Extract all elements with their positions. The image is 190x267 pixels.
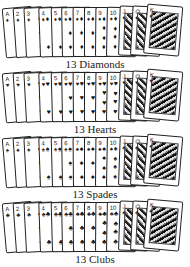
spades-pip-icon: ♠	[80, 160, 84, 167]
diamonds-pip-icon: ♦	[47, 44, 51, 51]
face-card-art	[149, 141, 179, 180]
clubs-pip-icon: ♣	[46, 211, 51, 218]
card-fan: A♣♣2♣♣♣3♣♣♣♣4♣♣♣♣♣5♣♣♣♣♣♣6♣♣♣♣♣♣♣7♣♣♣♣♣♣…	[0, 198, 190, 254]
card-index: 7♦	[76, 10, 79, 22]
card-index: 2♦	[16, 11, 20, 23]
hearts-pip-icon: ♥	[46, 81, 50, 88]
card-index: A♦	[5, 11, 10, 23]
card-index: 5♠	[54, 140, 58, 152]
spades-icon: ♠	[64, 146, 67, 152]
diamonds-pip-icon: ♦	[80, 16, 84, 23]
diamonds-pip-icon: ♦	[46, 16, 50, 23]
diamonds-pip-icon: ♦	[102, 35, 106, 42]
card-index: 3♥	[27, 76, 31, 88]
diamonds-pip-icon: ♦	[113, 44, 117, 51]
face-card-art	[149, 11, 179, 50]
diamonds-pip-icon: ♦	[102, 16, 106, 23]
spades-icon: ♠	[98, 146, 101, 152]
face-card-art	[149, 206, 179, 245]
suit-caption: 13 Clubs	[0, 253, 190, 265]
card-index: 5♦	[54, 10, 58, 22]
spades-icon: ♠	[76, 146, 79, 152]
spades-icon: ♠	[54, 146, 57, 152]
spades-pip-icon: ♠	[113, 164, 117, 171]
diamonds-pip-icon: ♦	[69, 30, 73, 37]
spades-pip-icon: ♠	[102, 155, 106, 162]
diamonds-pip-icon: ♦	[91, 30, 95, 37]
face-card-art	[149, 76, 179, 115]
diamonds-icon: ♦	[76, 16, 79, 22]
clubs-pip-icon: ♣	[114, 211, 119, 218]
hearts-icon: ♥	[27, 81, 31, 87]
card-k-of-clubs: K♣	[143, 199, 183, 252]
card-index: 9♠	[98, 140, 101, 152]
spades-icon: ♠	[5, 147, 10, 153]
card-index: 3♦	[27, 11, 31, 23]
diamonds-pip-icon: ♦	[113, 26, 117, 33]
spades-pip-icon: ♠	[102, 146, 106, 153]
clubs-pip-icon: ♣	[47, 239, 52, 246]
hearts-pip-icon: ♥	[114, 81, 118, 88]
card-index: 7♠	[76, 140, 79, 152]
clubs-pip-icon: ♣	[113, 229, 118, 236]
card-index: 9♦	[98, 10, 101, 22]
card-index: 8♦	[87, 10, 90, 22]
card-index: 2♣	[16, 206, 21, 218]
diamonds-pip-icon: ♦	[113, 34, 117, 41]
card-index: 4♠	[41, 140, 45, 152]
card-fan: A♦♦2♦♦♦3♦♦♦♦4♦♦♦♦♦5♦♦♦♦♦♦6♦♦♦♦♦♦♦7♦♦♦♦♦♦…	[0, 3, 190, 59]
diamonds-pip-icon: ♦	[91, 44, 95, 51]
card-index: 3♣	[27, 205, 32, 217]
diamonds-icon: ♦	[54, 16, 57, 22]
diamonds-pip-icon: ♦	[80, 30, 84, 37]
diamonds-pip-icon: ♦	[91, 16, 95, 23]
card-index: 2♥	[16, 76, 20, 88]
diamonds-pip-icon: ♦	[114, 16, 118, 23]
diamonds-icon: ♦	[27, 17, 31, 23]
spades-pip-icon: ♠	[46, 146, 50, 153]
spades-pip-icon: ♠	[80, 146, 84, 153]
card-index: A♥	[5, 76, 10, 88]
clubs-icon: ♣	[16, 212, 20, 218]
card-index: 6♦	[64, 10, 68, 22]
spades-icon: ♠	[42, 146, 46, 152]
diamonds-icon: ♦	[16, 17, 20, 23]
spades-icon: ♠	[16, 147, 20, 153]
hearts-pip-icon: ♥	[113, 109, 117, 116]
spades-pip-icon: ♠	[68, 146, 72, 153]
hearts-icon: ♥	[5, 82, 10, 88]
spades-pip-icon: ♠	[91, 146, 95, 153]
diamonds-icon: ♦	[42, 16, 46, 22]
clubs-pip-icon: ♣	[113, 221, 118, 228]
card-k-of-diamonds: K♦	[143, 4, 183, 57]
spades-pip-icon: ♠	[91, 160, 95, 167]
card-index: 2♠	[16, 141, 20, 153]
card-index: 8♠	[87, 140, 90, 152]
spades-pip-icon: ♠	[47, 174, 51, 181]
hearts-pip-icon: ♥	[113, 99, 117, 106]
card-fan: A♠♠2♠♠♠3♠♠♠♠4♠♠♠♠♠5♠♠♠♠♠♠6♠♠♠♠♠♠♠7♠♠♠♠♠♠…	[0, 133, 190, 189]
card-index: 6♠	[64, 140, 68, 152]
card-fan: A♥♥2♥♥♥3♥♥♥♥4♥♥♥♥♥5♥♥♥♥♥♥6♥♥♥♥♥♥♥7♥♥♥♥♥♥…	[0, 68, 190, 124]
spades-pip-icon: ♠	[113, 156, 117, 163]
diamonds-pip-icon: ♦	[102, 25, 106, 32]
spades-icon: ♠	[87, 146, 90, 152]
card-index: 3♠	[27, 141, 31, 153]
clubs-icon: ♣	[5, 212, 10, 218]
card-index: A♠	[5, 141, 10, 153]
card-index: 4♦	[41, 10, 45, 22]
diamonds-icon: ♦	[87, 16, 90, 22]
card-k-of-spades: K♠	[143, 134, 183, 187]
diamonds-pip-icon: ♦	[80, 44, 84, 51]
spades-pip-icon: ♠	[113, 174, 117, 181]
spades-pip-icon: ♠	[114, 146, 118, 153]
card-k-of-hearts: K♥	[143, 69, 183, 122]
hearts-pip-icon: ♥	[47, 109, 51, 116]
clubs-icon: ♣	[27, 211, 31, 217]
spades-icon: ♠	[27, 147, 31, 153]
diamonds-icon: ♦	[64, 16, 67, 22]
clubs-pip-icon: ♣	[113, 239, 118, 246]
diamonds-icon: ♦	[5, 17, 10, 23]
card-index: A♣	[5, 206, 10, 218]
diamonds-pip-icon: ♦	[68, 16, 72, 23]
